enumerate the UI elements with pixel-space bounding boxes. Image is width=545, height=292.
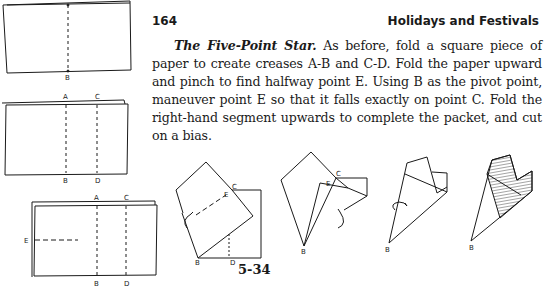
label-a: A: [63, 93, 68, 101]
label-b: B: [469, 244, 474, 252]
diagram-step-6: B: [385, 157, 447, 254]
label-c: C: [232, 183, 237, 191]
diagram-step-4: B D C E: [176, 162, 261, 267]
label-d: D: [230, 259, 235, 267]
diagram-step-2: A C B D: [2, 93, 128, 185]
label-c: C: [124, 194, 129, 202]
folding-diagrams: B A C B D A C E B D B D C E: [0, 0, 545, 292]
label-b: B: [301, 248, 306, 256]
label-d: D: [124, 280, 129, 288]
label-a: A: [94, 194, 99, 202]
diagram-step-1: B: [3, 1, 131, 82]
label-c: C: [95, 93, 100, 101]
label-b: B: [385, 246, 390, 254]
label-d: D: [95, 177, 100, 185]
diagram-step-5: B C E: [281, 152, 367, 256]
label-c: C: [336, 170, 341, 178]
label-e: E: [24, 237, 28, 245]
label-e: E: [326, 180, 330, 188]
label-e: E: [224, 191, 228, 199]
label-b: B: [94, 280, 99, 288]
diagram-step-7: B: [469, 155, 532, 252]
label-b: B: [65, 74, 70, 82]
label-b: B: [63, 177, 68, 185]
figure-label: 5-34: [238, 262, 271, 277]
label-b: B: [195, 259, 200, 267]
diagram-step-3: A C E B D: [24, 194, 157, 288]
